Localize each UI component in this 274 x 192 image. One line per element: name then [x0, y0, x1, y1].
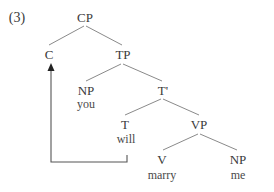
syntax-tree-diagram: (3) CP C TP NP you T' T will VP V	[0, 0, 274, 192]
node-label: NP	[230, 152, 247, 167]
movement-arrow	[48, 63, 128, 162]
edge-tp-np	[86, 64, 121, 81]
node-label: TP	[115, 47, 130, 62]
node-t: T will	[117, 117, 136, 146]
node-label: T'	[158, 83, 168, 98]
node-cp: CP	[77, 10, 93, 25]
edge-cp-c	[49, 26, 84, 45]
node-np-object: NP me	[230, 152, 247, 182]
edge-vp-np	[200, 134, 237, 150]
example-number: (3)	[9, 10, 26, 26]
node-c: C	[45, 47, 54, 62]
node-label: CP	[77, 10, 93, 25]
edge-cp-tp	[86, 26, 122, 45]
node-t-bar: T'	[158, 83, 168, 98]
node-vp: VP	[191, 117, 208, 132]
node-label: NP	[78, 83, 95, 98]
node-label: C	[45, 47, 54, 62]
arrowhead-icon	[48, 63, 55, 71]
node-word: you	[77, 97, 95, 111]
node-word: me	[231, 168, 246, 182]
node-tp: TP	[115, 47, 130, 62]
node-v: V marry	[148, 152, 177, 182]
node-label: T	[121, 117, 129, 132]
edge-tp-tbar	[123, 64, 162, 81]
node-word: marry	[148, 168, 177, 182]
node-np-subject: NP you	[77, 83, 95, 111]
edge-vp-v	[163, 134, 198, 150]
node-label: VP	[191, 117, 208, 132]
edge-tbar-vp	[163, 99, 199, 115]
node-word: will	[117, 132, 136, 146]
node-label: V	[157, 152, 167, 167]
edge-tbar-t	[125, 99, 161, 115]
